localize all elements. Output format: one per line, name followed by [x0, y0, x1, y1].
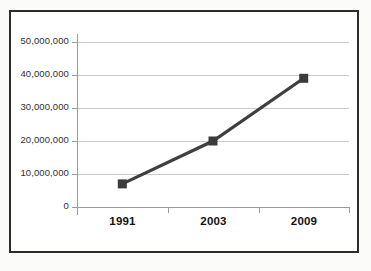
- data-point-marker-1991[interactable]: [118, 179, 127, 188]
- chart-frame-border: 50,000,000 40,000,000 30,000,000 20,000,…: [9, 10, 359, 253]
- data-point-marker-2003[interactable]: [209, 137, 218, 146]
- data-series-layer: [11, 12, 361, 255]
- series-line-path: [122, 78, 303, 184]
- chart-screenshot: 50,000,000 40,000,000 30,000,000 20,000,…: [0, 0, 371, 271]
- data-point-marker-2009[interactable]: [299, 74, 308, 83]
